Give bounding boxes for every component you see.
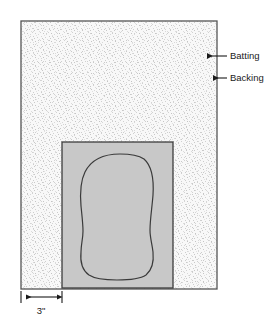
- batting-label: Batting: [230, 50, 260, 61]
- dimension-label: 3": [37, 305, 46, 316]
- dimension-marker-3in: 3": [21, 291, 62, 316]
- quilting-layout-diagram: Batting Backing 3": [0, 0, 280, 326]
- fabric-piece-fill: [62, 142, 173, 288]
- callout-backing: Backing: [213, 72, 264, 83]
- fabric-piece-group: [62, 142, 173, 288]
- diagram-canvas: Batting Backing 3": [0, 0, 280, 326]
- backing-label: Backing: [230, 72, 264, 83]
